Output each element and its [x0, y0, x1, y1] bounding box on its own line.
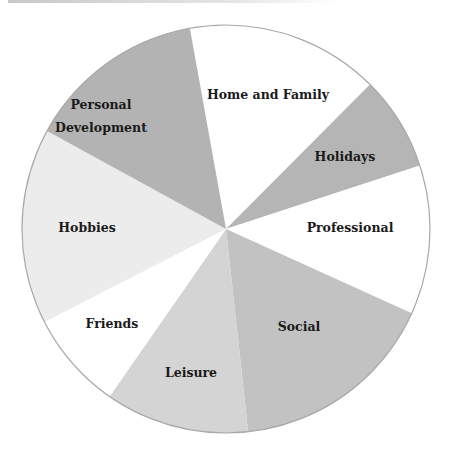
slice-label-home-and-family: Home and Family — [207, 87, 330, 102]
slice-label-professional: Professional — [307, 220, 394, 235]
pie-chart: Home and FamilyHolidaysProfessionalSocia… — [0, 0, 451, 457]
slice-label-social: Social — [278, 319, 321, 334]
slice-label-hobbies: Hobbies — [58, 220, 115, 235]
slice-label-leisure: Leisure — [165, 365, 217, 380]
slice-label-friends: Friends — [86, 316, 139, 331]
slice-label-holidays: Holidays — [315, 149, 376, 164]
